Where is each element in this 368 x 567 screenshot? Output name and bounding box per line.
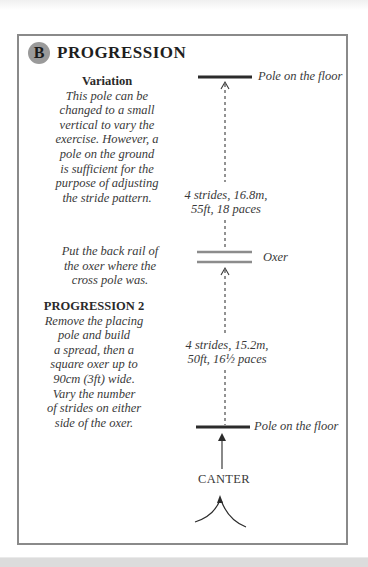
- top-pole-label: Pole on the floor: [258, 69, 342, 83]
- upper-distance-label: 4 strides, 16.8m, 55ft, 18 paces: [182, 188, 270, 216]
- page-bottom-band: [0, 557, 368, 567]
- approach-arrowhead-icon: [218, 433, 226, 441]
- canter-label: CANTER: [198, 472, 250, 487]
- canter-arrowhead-icon: [217, 495, 223, 503]
- approach-curve-left: [195, 500, 220, 522]
- upper-distance-line: 55ft, 18 paces: [182, 202, 270, 216]
- approach-curve-right: [221, 500, 246, 527]
- lower-distance-label: 4 strides, 15.2m, 50ft, 16½ paces: [180, 338, 274, 366]
- upper-distance-line: 4 strides, 16.8m,: [182, 188, 270, 202]
- oxer-label: Oxer: [263, 250, 288, 264]
- lower-distance-line: 50ft, 16½ paces: [180, 352, 274, 366]
- bottom-pole-label: Pole on the floor: [254, 419, 338, 433]
- lower-distance-line: 4 strides, 15.2m,: [180, 338, 274, 352]
